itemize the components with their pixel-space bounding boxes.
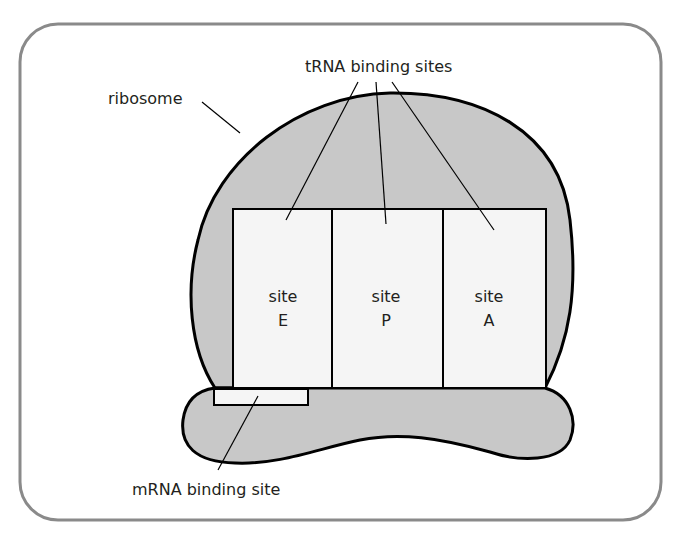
site-a-label-line1: site	[475, 287, 504, 306]
mrna-binding-site-box	[214, 389, 308, 405]
site-p-label-line2: P	[381, 311, 391, 330]
ribosome-label: ribosome	[108, 89, 183, 108]
site-e-label-line2: E	[278, 311, 288, 330]
site-e-label-line1: site	[269, 287, 298, 306]
mrna-binding-site-label: mRNA binding site	[132, 480, 280, 499]
trna-binding-sites-label: tRNA binding sites	[305, 57, 452, 76]
site-p-label-line1: site	[372, 287, 401, 306]
ribosome-diagram: ribosome tRNA binding sites mRNA binding…	[0, 0, 681, 544]
site-a-label-line2: A	[484, 311, 495, 330]
